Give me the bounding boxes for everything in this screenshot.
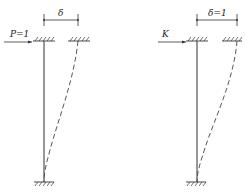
top-hatch-displaced-left	[68, 37, 90, 41]
deformed-shape-right	[197, 41, 237, 182]
left-panel: δ P=1	[4, 8, 90, 186]
column-stiffness-diagram: δ P=1	[0, 0, 247, 195]
load-arrow-left: P=1	[4, 29, 32, 42]
load-arrow-right: K	[158, 29, 186, 42]
top-hatch-original-right	[186, 37, 208, 41]
load-label-right: K	[161, 29, 170, 39]
top-hatch-displaced-right	[222, 37, 242, 41]
displacement-label-left: δ	[58, 8, 63, 18]
displacement-dimension-right: δ=1	[196, 8, 238, 26]
load-label-left: P=1	[9, 29, 29, 39]
displacement-label-right: δ=1	[208, 8, 227, 18]
top-hatch-original-left	[33, 37, 55, 41]
deformed-shape-left	[44, 41, 78, 182]
right-panel: δ=1 K	[158, 8, 242, 186]
base-support-left	[34, 182, 54, 186]
base-support-right	[186, 182, 206, 186]
displacement-dimension-left: δ	[43, 8, 79, 26]
